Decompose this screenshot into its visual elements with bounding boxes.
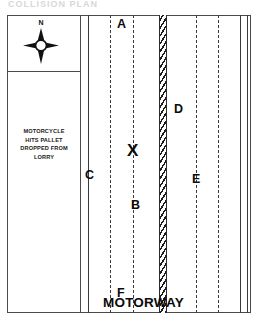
caption-line-2: HITS PALLET — [7, 136, 81, 145]
right-lane-divider-2 — [218, 15, 219, 313]
compass-north-label: N — [19, 19, 63, 27]
map-label-d: D — [174, 103, 183, 116]
caption-line-4: LORRY — [7, 153, 81, 162]
caption-line-3: DROPPED FROM — [7, 144, 81, 153]
right-carriageway-edge-line — [240, 15, 241, 313]
road-name-label: MOTORWAY — [103, 296, 184, 310]
incident-caption: MOTORCYCLE HITS PALLET DROPPED FROM LORR… — [7, 127, 81, 161]
carriageway-area: A C B D E F X MOTORWAY — [81, 15, 251, 313]
map-label-a: A — [117, 18, 126, 31]
map-label-e: E — [192, 173, 200, 186]
info-panel: N MOTORCYCLE HITS PALLET DROPPED FROM LO… — [7, 15, 81, 313]
caption-line-1: MOTORCYCLE — [7, 127, 81, 136]
map-label-c: C — [85, 169, 94, 182]
impact-point-marker: X — [127, 142, 138, 159]
hard-shoulder-edge-line — [247, 15, 248, 313]
map-label-b: B — [131, 199, 140, 212]
central-barrier — [159, 15, 167, 313]
right-lane-divider-1 — [196, 15, 197, 313]
diagram-canvas: COLLISION PLAN N MOTORCYCLE HITS PALLET … — [0, 0, 258, 331]
compass-rose-icon: N — [19, 19, 63, 69]
left-lane-divider-2 — [133, 15, 134, 313]
scan-header-text: COLLISION PLAN — [8, 0, 188, 9]
left-carriageway-edge-line — [88, 15, 89, 313]
compass-box: N — [7, 15, 81, 72]
left-lane-divider-1 — [110, 15, 111, 313]
